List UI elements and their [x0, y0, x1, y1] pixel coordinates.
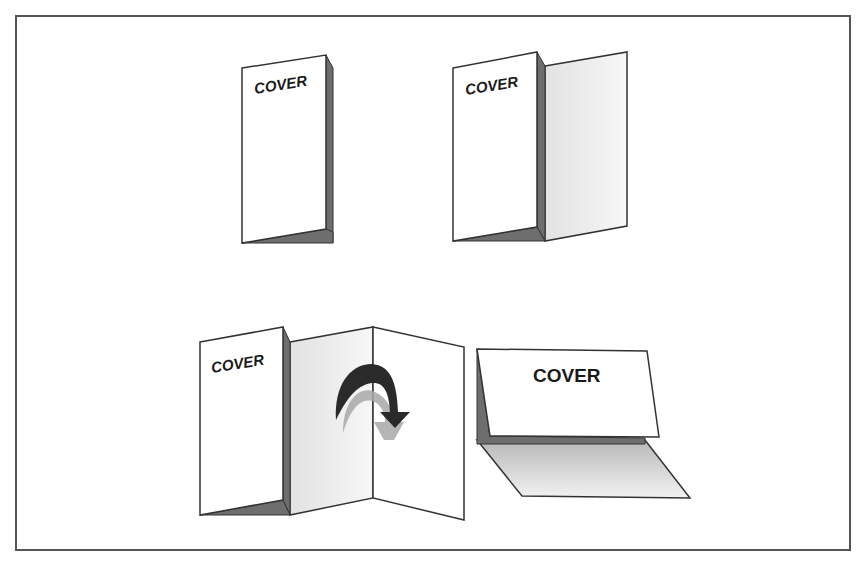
spine-shade — [537, 52, 545, 241]
figure-tent-card: COVER — [477, 349, 690, 498]
bottom-panel — [477, 440, 690, 498]
front-cover-panel — [477, 349, 659, 437]
figure-trifold-open: COVER — [200, 327, 464, 520]
spine-shade — [283, 327, 290, 515]
inside-middle-panel — [290, 327, 373, 515]
figure-opened-folder: COVER — [453, 52, 627, 241]
back-edge-shade — [326, 55, 333, 243]
inside-right-panel — [545, 52, 627, 241]
figure-closed-folder: COVER — [242, 55, 333, 243]
cover-label: COVER — [533, 365, 601, 386]
folding-diagram: COVER COVER COVER COVER — [0, 0, 867, 565]
